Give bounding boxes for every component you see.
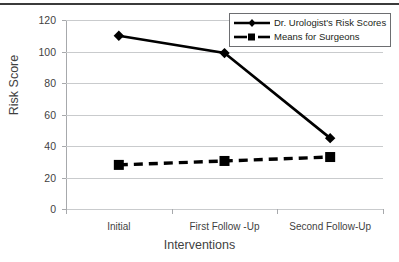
x-axis-category-label: Initial — [66, 222, 172, 232]
series-1 — [114, 152, 335, 170]
diamond-marker-icon — [233, 17, 271, 29]
square-marker-icon — [220, 156, 230, 166]
x-axis-category-label: First Follow -Up — [172, 222, 278, 232]
x-axis-tick — [66, 209, 67, 214]
legend-item-0[interactable]: Dr. Urologist's Risk Scores — [233, 16, 386, 30]
legend-label-0: Dr. Urologist's Risk Scores — [271, 18, 386, 28]
square-marker-icon — [325, 152, 335, 162]
legend-label-1: Means for Surgeons — [271, 32, 360, 42]
legend-item-1[interactable]: Means for Surgeons — [233, 30, 386, 44]
x-axis-title: Interventions — [0, 238, 399, 252]
x-axis-tick — [277, 209, 278, 214]
series-plot-layer — [66, 20, 383, 209]
line-chart-figure: 020406080100120 InitialFirst Follow -UpS… — [0, 0, 399, 262]
square-marker-icon — [233, 31, 271, 43]
x-axis-tick — [383, 209, 384, 214]
diamond-marker-icon — [114, 31, 124, 41]
y-axis-tick-label: 120 — [0, 15, 56, 26]
series-0 — [114, 31, 336, 144]
x-axis-tick — [172, 209, 173, 214]
top-divider-rule — [0, 3, 399, 5]
square-marker-icon — [114, 160, 124, 170]
plot-area — [66, 20, 383, 209]
gridline — [66, 209, 383, 210]
y-axis-tick-label: 20 — [0, 173, 56, 184]
x-axis-category-label: Second Follow-Up — [277, 222, 383, 232]
y-axis-title: Risk Score — [7, 25, 21, 145]
y-axis-tick-label: 0 — [0, 204, 56, 215]
chart-legend[interactable]: Dr. Urologist's Risk Scores Means for Su… — [229, 13, 391, 47]
